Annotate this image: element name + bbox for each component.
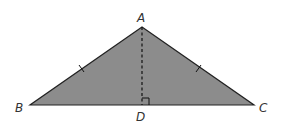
label-c: C — [259, 101, 268, 115]
label-d: D — [136, 110, 145, 124]
label-a: A — [136, 11, 145, 25]
label-b: B — [15, 101, 23, 115]
triangle-diagram: A B C D — [0, 0, 289, 131]
